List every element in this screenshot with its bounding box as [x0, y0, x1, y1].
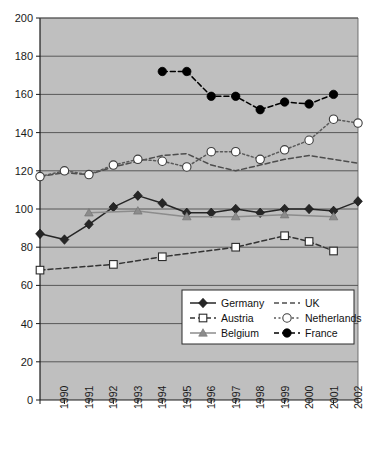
- svg-text:0: 0: [27, 394, 33, 406]
- svg-text:1993: 1993: [132, 385, 144, 409]
- legend-label: Netherlands: [305, 312, 362, 324]
- line-chart: 020406080100120140160180200 199019911992…: [0, 0, 373, 455]
- legend-label: France: [305, 327, 338, 339]
- legend-item-austria[interactable]: Austria: [190, 312, 254, 324]
- legend-item-netherlands[interactable]: Netherlands: [274, 312, 362, 324]
- svg-text:180: 180: [15, 50, 33, 62]
- legend-label: Germany: [221, 297, 265, 309]
- legend-label: Belgium: [221, 327, 259, 339]
- svg-text:1994: 1994: [156, 385, 168, 409]
- svg-text:1996: 1996: [205, 385, 217, 409]
- figure-container: 020406080100120140160180200 199019911992…: [0, 0, 373, 455]
- y-axis-tick-labels: 020406080100120140160180200: [15, 12, 40, 406]
- svg-text:140: 140: [15, 127, 33, 139]
- figure-caption: [0, 444, 373, 455]
- svg-text:1990: 1990: [58, 385, 70, 409]
- svg-text:160: 160: [15, 88, 33, 100]
- svg-text:20: 20: [21, 356, 33, 368]
- svg-text:2002: 2002: [352, 385, 364, 409]
- legend-label: Austria: [221, 312, 254, 324]
- svg-text:1991: 1991: [83, 385, 95, 409]
- svg-text:2001: 2001: [328, 385, 340, 409]
- svg-text:1995: 1995: [181, 385, 193, 409]
- svg-text:200: 200: [15, 12, 33, 24]
- chart-legend[interactable]: GermanyUKAustriaNetherlandsBelgiumFrance: [182, 290, 362, 344]
- svg-text:1997: 1997: [230, 385, 242, 409]
- svg-text:120: 120: [15, 165, 33, 177]
- svg-text:1992: 1992: [107, 385, 119, 409]
- svg-text:1998: 1998: [254, 385, 266, 409]
- svg-text:40: 40: [21, 318, 33, 330]
- svg-text:100: 100: [15, 203, 33, 215]
- legend-label: UK: [305, 297, 320, 309]
- svg-text:1999: 1999: [279, 385, 291, 409]
- svg-text:2000: 2000: [303, 385, 315, 409]
- svg-text:80: 80: [21, 241, 33, 253]
- svg-text:60: 60: [21, 279, 33, 291]
